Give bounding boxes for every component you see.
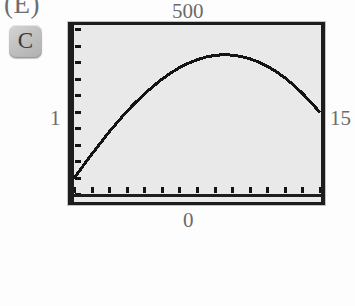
part-label: (E) — [4, 0, 40, 18]
screen-ymin-label: 0 — [183, 210, 194, 231]
curve-trace — [74, 55, 320, 179]
screen-xmin-label: 1 — [50, 108, 61, 129]
screen-ymax-label: 500 — [172, 1, 204, 22]
calculator-clear-key-label: C — [18, 29, 33, 52]
x-axis-tick-marks — [75, 187, 321, 193]
calculator-screen — [68, 22, 325, 205]
screen-xmax-label: 15 — [330, 108, 351, 129]
plot-svg — [71, 25, 321, 202]
plot-area — [71, 25, 321, 202]
calculator-clear-key[interactable]: C — [9, 25, 42, 58]
